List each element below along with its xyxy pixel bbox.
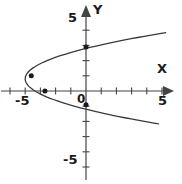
x-tick-label-minus-5: -5 bbox=[15, 94, 29, 107]
parabola-curve bbox=[25, 33, 165, 124]
coordinate-plane-svg bbox=[0, 0, 182, 184]
marked-point bbox=[29, 73, 34, 78]
marked-point bbox=[84, 44, 89, 49]
marked-point bbox=[42, 89, 47, 94]
y-tick-label-minus-5: -5 bbox=[63, 153, 77, 166]
y-tick-label-5: 5 bbox=[68, 11, 77, 24]
origin-label: 0 bbox=[77, 93, 85, 105]
y-axis-title: Y bbox=[93, 3, 102, 16]
graph-figure: Y X 5 -5 -5 5 0 bbox=[0, 0, 182, 184]
x-tick-label-5: 5 bbox=[158, 94, 167, 107]
x-axis-title: X bbox=[157, 62, 167, 75]
